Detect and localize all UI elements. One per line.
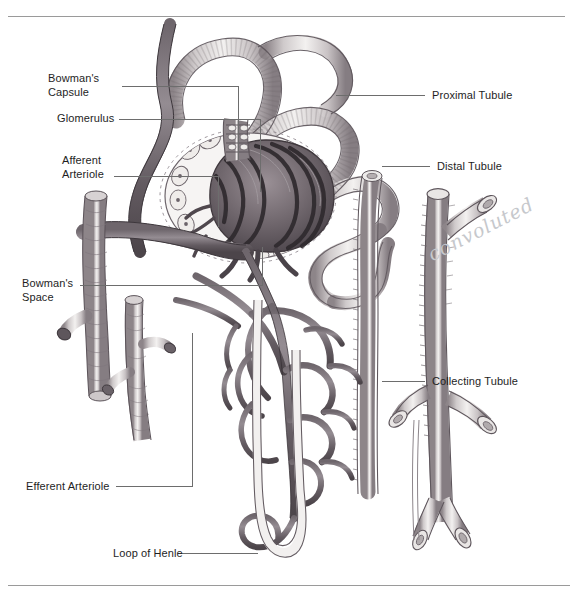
label-efferent-arteriole: Efferent Arteriole	[26, 480, 110, 494]
tubule-neck-drawing	[223, 119, 250, 160]
label-bowmans-capsule: Bowman's Capsule	[48, 72, 99, 99]
label-afferent-arteriole: Afferent Arteriole	[62, 154, 104, 181]
label-proximal-tubule: Proximal Tubule	[432, 89, 512, 103]
label-bowmans-space: Bowman's Space	[22, 277, 73, 304]
nephron-figure: Bowman's Capsule Glomerulus Afferent Art…	[0, 0, 578, 598]
label-distal-tubule: Distal Tubule	[437, 160, 502, 174]
label-collecting-tubule: Collecting Tubule	[432, 375, 518, 389]
label-loop-of-henle: Loop of Henle	[113, 547, 183, 561]
thin-duct-drawing	[413, 420, 420, 540]
label-glomerulus: Glomerulus	[57, 112, 114, 126]
